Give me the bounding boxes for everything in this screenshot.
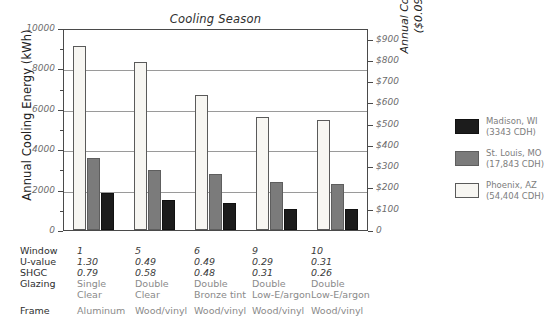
y-axis-right-tick	[368, 167, 373, 168]
bar-phoenix	[134, 62, 147, 230]
y-axis-left-tick	[58, 231, 63, 232]
y-axis-left-tick	[58, 29, 63, 30]
bar-group	[186, 30, 247, 230]
table-cell: Low-E/argon	[311, 289, 370, 300]
bar-madison	[162, 200, 175, 230]
bar-madison	[284, 209, 297, 230]
legend-label-cdh: (54,404 CDH)	[486, 191, 544, 202]
table-cell: 0.31	[311, 256, 332, 267]
y-axis-left-tick-label: 10000	[0, 23, 55, 33]
bar-stlouis	[87, 158, 100, 230]
table-cell: Double	[252, 278, 286, 289]
table-cell: 0.79	[77, 267, 98, 278]
y-axis-left-minor-tick	[60, 211, 63, 212]
legend-item[interactable]: Madison, WI(3343 CDH)	[455, 118, 548, 146]
table-cell: Single	[77, 278, 106, 289]
y-axis-right-tick	[368, 125, 373, 126]
y-axis-right-tick-label: $200	[376, 182, 399, 192]
y-axis-right-tick-label: $900	[376, 34, 399, 44]
y-axis-right-label-line2: ($0.095 per kWh)	[412, 0, 426, 60]
legend: Madison, WI(3343 CDH)St. Louis, MO(17,84…	[455, 118, 548, 214]
y-axis-left-minor-tick	[60, 90, 63, 91]
legend-label: Madison, WI(3343 CDH)	[486, 116, 538, 138]
table-cell: Wood/vinyl	[135, 305, 187, 316]
bar-madison	[223, 203, 236, 230]
y-axis-right-label: Annual Cooling Fuel Cost ($0.095 per kWh…	[398, 0, 426, 60]
table-cell: 0.26	[311, 267, 332, 278]
y-axis-right-tick-label: $600	[376, 97, 399, 107]
table-row-label: Frame	[20, 305, 50, 316]
table-cell: Double	[194, 278, 228, 289]
table-cell: 0.58	[135, 267, 156, 278]
bar-phoenix	[317, 120, 330, 230]
y-axis-left-minor-tick	[60, 170, 63, 171]
y-axis-left-minor-tick	[60, 49, 63, 50]
y-axis-right-tick	[368, 61, 373, 62]
bar-madison	[101, 193, 114, 230]
y-axis-left-tick-label: 4000	[0, 144, 55, 154]
bar-group	[308, 30, 369, 230]
legend-label: Phoenix, AZ(54,404 CDH)	[486, 180, 544, 202]
y-axis-right-tick-label: $100	[376, 204, 399, 214]
bar-madison	[345, 209, 358, 230]
y-axis-left-tick-label: 8000	[0, 63, 55, 73]
plot-area	[63, 29, 368, 231]
table-cell: 10	[311, 245, 323, 256]
table-cell: Low-E/argon	[252, 289, 311, 300]
legend-item[interactable]: St. Louis, MO(17,843 CDH)	[455, 150, 548, 178]
y-axis-left-minor-tick	[60, 130, 63, 131]
y-axis-right-tick	[368, 188, 373, 189]
table-cell: 0.29	[252, 256, 273, 267]
table-cell: 0.49	[194, 256, 215, 267]
bar-stlouis	[148, 170, 161, 230]
table-cell: 9	[252, 245, 258, 256]
table-cell: Clear	[77, 289, 102, 300]
y-axis-right-tick-label: 0	[376, 225, 382, 235]
y-axis-left-tick	[58, 69, 63, 70]
table-cell: 1	[77, 245, 83, 256]
table-cell: 6	[194, 245, 200, 256]
y-axis-left-tick-label: 6000	[0, 104, 55, 114]
legend-item[interactable]: Phoenix, AZ(54,404 CDH)	[455, 182, 548, 210]
parameter-table: WindowU-valueSHGCGlazingFrame11.300.79Si…	[0, 243, 420, 331]
table-cell: Clear	[135, 289, 160, 300]
bar-phoenix	[195, 95, 208, 230]
table-row-label: U-value	[20, 256, 56, 267]
y-axis-left-tick	[58, 110, 63, 111]
table-cell: 0.49	[135, 256, 156, 267]
legend-swatch-madison	[455, 119, 479, 134]
legend-label-cdh: (17,843 CDH)	[486, 159, 544, 170]
y-axis-right-tick	[368, 82, 373, 83]
bar-phoenix	[73, 46, 86, 230]
y-axis-right-tick-label: $300	[376, 161, 399, 171]
table-cell: 5	[135, 245, 141, 256]
y-axis-right-tick-label: $500	[376, 119, 399, 129]
legend-label-city: Madison, WI	[486, 116, 538, 127]
chart-title: Cooling Season	[63, 12, 368, 26]
y-axis-right-tick	[368, 146, 373, 147]
bar-stlouis	[209, 174, 222, 230]
bar-group	[64, 30, 125, 230]
y-axis-right-tick	[368, 231, 373, 232]
table-cell: Wood/vinyl	[311, 305, 363, 316]
bar-group	[247, 30, 308, 230]
bar-group	[125, 30, 186, 230]
table-cell: Bronze tint	[194, 289, 246, 300]
y-axis-right-tick-label: $400	[376, 140, 399, 150]
legend-label-cdh: (3343 CDH)	[486, 127, 538, 138]
legend-label: St. Louis, MO(17,843 CDH)	[486, 148, 544, 170]
y-axis-right-tick	[368, 40, 373, 41]
table-cell: 0.31	[252, 267, 273, 278]
chart-figure: Cooling Season Annual Cooling Energy (kW…	[0, 0, 548, 331]
legend-swatch-phoenix	[455, 183, 479, 198]
y-axis-right-tick-label: $800	[376, 55, 399, 65]
table-row-label: SHGC	[20, 267, 47, 278]
bar-stlouis	[270, 182, 283, 230]
y-axis-right-tick-label: $700	[376, 76, 399, 86]
y-axis-right-tick	[368, 103, 373, 104]
y-axis-left-tick-label: 0	[0, 225, 55, 235]
bar-phoenix	[256, 117, 269, 230]
table-cell: 0.48	[194, 267, 215, 278]
legend-swatch-stlouis	[455, 151, 479, 166]
y-axis-left-tick	[58, 150, 63, 151]
